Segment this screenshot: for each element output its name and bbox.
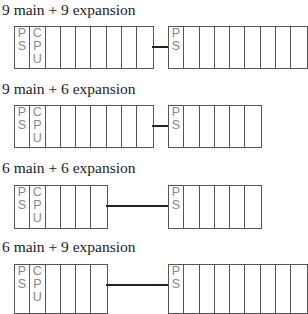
io-slot [107, 106, 122, 147]
cpu-slot: CPU [30, 265, 45, 313]
ps-slot: PS [169, 265, 184, 313]
io-slot [61, 186, 76, 228]
io-slot [215, 27, 230, 68]
io-slot [184, 265, 199, 313]
cpu-slot: CPU [30, 186, 45, 228]
io-slot [46, 265, 61, 313]
io-slot [91, 186, 106, 228]
ps-slot: PS [169, 27, 184, 68]
expansion-rack: PS [168, 185, 262, 229]
io-slot [91, 106, 106, 147]
ps-slot: PS [15, 27, 30, 68]
io-slot [46, 186, 61, 228]
config-title: 9 main + 9 expansion [2, 2, 136, 18]
io-slot [91, 265, 106, 313]
io-slot [184, 106, 199, 147]
io-slot [200, 265, 215, 313]
io-slot [261, 27, 276, 68]
io-slot [230, 186, 245, 228]
io-slot [230, 27, 245, 68]
io-slot [76, 265, 91, 313]
config-title: 9 main + 6 expansion [2, 81, 136, 97]
expansion-cable [106, 205, 168, 207]
cpu-slot: CPU [30, 27, 45, 68]
io-slot [245, 186, 260, 228]
io-slot [291, 265, 306, 313]
io-slot [76, 106, 91, 147]
io-slot [46, 27, 61, 68]
main-rack: PSCPU [14, 185, 108, 229]
io-slot [76, 27, 91, 68]
main-rack: PSCPU [14, 105, 154, 148]
config-title: 6 main + 9 expansion [2, 239, 136, 255]
io-slot [215, 265, 230, 313]
io-slot [122, 27, 137, 68]
ps-slot: PS [15, 106, 30, 147]
io-slot [76, 186, 91, 228]
io-slot [200, 106, 215, 147]
io-slot [276, 27, 291, 68]
expansion-rack: PS [168, 26, 308, 69]
ps-slot: PS [169, 106, 184, 147]
io-slot [245, 27, 260, 68]
io-slot [200, 186, 215, 228]
expansion-cable [152, 46, 168, 48]
io-slot [122, 106, 137, 147]
io-slot [215, 186, 230, 228]
io-slot [61, 265, 76, 313]
expansion-cable [106, 284, 168, 286]
io-slot [184, 27, 199, 68]
io-slot [230, 265, 245, 313]
io-slot [46, 106, 61, 147]
io-slot [230, 106, 245, 147]
io-slot [137, 106, 152, 147]
io-slot [137, 27, 152, 68]
ps-slot: PS [169, 186, 184, 228]
io-slot [107, 27, 122, 68]
io-slot [61, 27, 76, 68]
config-title: 6 main + 6 expansion [2, 160, 136, 176]
io-slot [245, 106, 260, 147]
io-slot [91, 27, 106, 68]
main-rack: PSCPU [14, 264, 108, 314]
expansion-rack: PS [168, 264, 308, 314]
io-slot [184, 186, 199, 228]
ps-slot: PS [15, 265, 30, 313]
io-slot [276, 265, 291, 313]
io-slot [61, 106, 76, 147]
io-slot [291, 27, 306, 68]
io-slot [261, 265, 276, 313]
io-slot [245, 265, 260, 313]
io-slot [200, 27, 215, 68]
ps-slot: PS [15, 186, 30, 228]
expansion-rack: PS [168, 105, 262, 148]
io-slot [215, 106, 230, 147]
cpu-slot: CPU [30, 106, 45, 147]
expansion-cable [152, 125, 168, 127]
main-rack: PSCPU [14, 26, 154, 69]
